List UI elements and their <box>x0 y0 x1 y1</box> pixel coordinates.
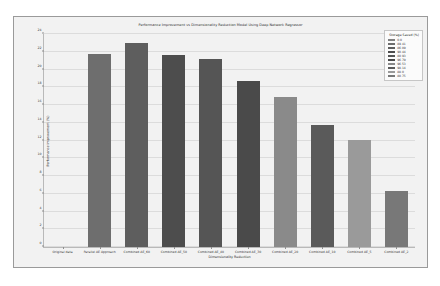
y-axis-label: Performance Improvement (%) <box>46 115 50 166</box>
x-tick-label: Combined AE_2 <box>384 250 408 254</box>
x-tick-label: Combined AE_40 <box>198 250 224 254</box>
y-tick-label: 2 <box>39 223 41 227</box>
y-tick-label: 16 <box>37 99 41 103</box>
bar <box>311 125 334 247</box>
y-tick-label: 18 <box>37 81 41 85</box>
x-axis-label: Dimensionality Reduction <box>44 255 415 259</box>
legend-swatch-icon <box>388 67 395 69</box>
y-tick-label: 12 <box>37 135 41 139</box>
bar <box>348 140 371 247</box>
y-tick-label: 20 <box>37 64 41 68</box>
legend-entries: 0.089.4186.0990.4480.9396.7996.5398.1488… <box>388 38 419 78</box>
legend: Storage Saved (%) 0.089.4186.0990.4480.9… <box>384 30 423 81</box>
x-tick-label: Combined AE_20 <box>272 250 298 254</box>
y-tick-label: 10 <box>37 152 41 156</box>
x-tick-mark <box>285 247 286 249</box>
legend-title: Storage Saved (%) <box>389 33 419 37</box>
chart-title: Performance Improvement vs Dimensionalit… <box>14 23 427 27</box>
legend-swatch-icon <box>388 63 395 65</box>
bar-group: Combined AE_10 <box>304 34 341 247</box>
y-tick-label: 22 <box>37 46 41 50</box>
x-tick-mark <box>248 247 249 249</box>
x-tick-label: Combined AE_30 <box>235 250 261 254</box>
bar-group: Combined AE_50 <box>155 34 192 247</box>
legend-swatch-icon <box>388 75 395 77</box>
x-tick-mark <box>100 247 101 249</box>
bar <box>88 54 111 247</box>
x-tick-label: Original data <box>53 250 73 254</box>
bar <box>199 59 222 247</box>
bar <box>125 43 148 247</box>
x-tick-label: Combined AE_60 <box>124 250 150 254</box>
bar-series: Original dataParallel AE ApproachCombine… <box>44 34 415 247</box>
bar-group: Combined AE_30 <box>230 34 267 247</box>
legend-swatch-icon <box>388 39 395 41</box>
legend-swatch-icon <box>388 59 395 61</box>
plot-area: 024681012141618202224 Original dataParal… <box>43 34 415 248</box>
x-tick-label: Combined AE_50 <box>161 250 187 254</box>
x-tick-label: Combined AE_5 <box>347 250 371 254</box>
bar-group: Combined AE_40 <box>192 34 229 247</box>
bar <box>237 81 260 247</box>
y-tick-label: 14 <box>37 117 41 121</box>
x-tick-mark <box>211 247 212 249</box>
y-tick-label: 8 <box>39 170 41 174</box>
x-tick-mark <box>359 247 360 249</box>
y-tick-label: 4 <box>39 206 41 210</box>
chart-figure: Performance Improvement vs Dimensionalit… <box>13 16 428 268</box>
legend-swatch-icon <box>388 47 395 49</box>
y-tick-label: 24 <box>37 28 41 32</box>
bar-group: Parallel AE Approach <box>81 34 118 247</box>
bar <box>162 55 185 247</box>
x-tick-mark <box>174 247 175 249</box>
x-tick-mark <box>63 247 64 249</box>
y-tick-label: 0 <box>39 241 41 245</box>
legend-item: 80.75 <box>388 74 419 78</box>
bar-group: Combined AE_60 <box>118 34 155 247</box>
x-tick-label: Parallel AE Approach <box>84 250 116 254</box>
legend-label: 80.75 <box>397 74 406 78</box>
x-tick-label: Combined AE_10 <box>309 250 335 254</box>
y-tick-label: 6 <box>39 188 41 192</box>
bar-group: Combined AE_20 <box>267 34 304 247</box>
bar <box>385 191 408 247</box>
legend-swatch-icon <box>388 51 395 53</box>
bar <box>274 97 297 247</box>
x-tick-mark <box>322 247 323 249</box>
x-tick-mark <box>396 247 397 249</box>
x-tick-mark <box>137 247 138 249</box>
bar-group: Combined AE_5 <box>341 34 378 247</box>
legend-swatch-icon <box>388 55 395 57</box>
legend-swatch-icon <box>388 43 395 45</box>
legend-swatch-icon <box>388 71 395 73</box>
